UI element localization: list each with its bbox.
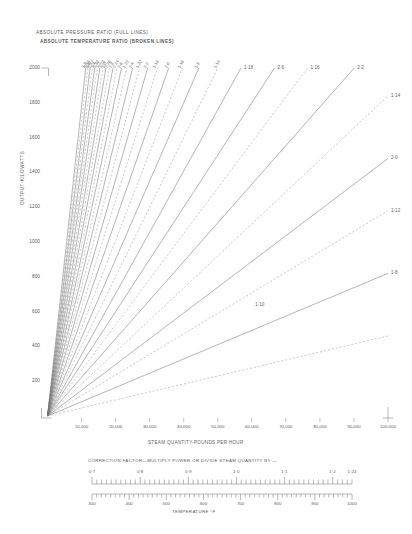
y-axis-tick-label: 600	[18, 309, 40, 314]
x-axis-title: STEAM QUANTITY-POUNDS PER HOUR	[148, 440, 244, 445]
y-axis-tick-label: 800	[18, 274, 40, 279]
temperature-scale-label: 700	[231, 501, 251, 506]
x-axis-tick-label: 60,000	[236, 424, 268, 429]
ray-label-inner: 1·10	[255, 302, 264, 307]
ray-label-right: 1·14	[391, 93, 400, 98]
temperature-scale-label: 600	[193, 501, 213, 506]
x-axis-tick-label: 80,000	[304, 424, 336, 429]
x-axis-tick-label: 20,000	[100, 424, 132, 429]
correction-scale-label: 0·7	[82, 469, 102, 474]
ray-label-right: 1·18	[244, 65, 253, 70]
temperature-scale-label: 900	[305, 501, 325, 506]
temperature-scale-label: 400	[119, 501, 139, 506]
temperature-scale-label: 300	[82, 501, 102, 506]
correction-factor-title: CORRECTION FACTOR—MULTIPLY POWER OR DIVI…	[88, 458, 277, 463]
temperature-axis-title: TEMPERATURE °F	[172, 509, 215, 514]
ray-label-right: 1·12	[391, 208, 400, 213]
x-axis-tick-label: 100,000	[372, 424, 404, 429]
y-axis-tick-label: 200	[18, 378, 40, 383]
y-axis-tick-label: 1000	[18, 239, 40, 244]
y-axis-tick-label: 1800	[18, 100, 40, 105]
y-axis-title: OUTPUT-KILOWATTS	[20, 151, 25, 205]
correction-scale-label: 1·2	[323, 469, 343, 474]
correction-scale-label: 0·8	[130, 469, 150, 474]
x-axis-tick-label: 90,000	[338, 424, 370, 429]
x-axis-tick-label: 10,000	[66, 424, 98, 429]
temperature-scale-label: 800	[268, 501, 288, 506]
ray-label-right: 2·2	[357, 65, 364, 70]
ray-label-right: 2·6	[278, 65, 285, 70]
y-axis-tick-label: 1600	[18, 135, 40, 140]
correction-scale-label: 1·24	[342, 469, 362, 474]
ray-label-right: 1·16	[310, 65, 319, 70]
correction-scale-label: 1·0	[226, 469, 246, 474]
correction-scale-label: 1·1	[274, 469, 294, 474]
ray-label-right: 2·0	[391, 155, 398, 160]
ray-label-right: 1·8	[391, 270, 398, 275]
x-axis-tick-label: 30,000	[134, 424, 166, 429]
correction-scale-label: 0·9	[178, 469, 198, 474]
y-axis-tick-label: 400	[18, 343, 40, 348]
x-axis-tick-label: 70,000	[270, 424, 302, 429]
chart-plot-area	[0, 0, 412, 534]
temperature-scale-label: 1000	[342, 501, 362, 506]
y-axis-tick-label: 1400	[18, 169, 40, 174]
y-axis-tick-label: 1200	[18, 204, 40, 209]
temperature-scale-label: 500	[156, 501, 176, 506]
chart-page: ABSOLUTE PRESSURE RATIO (FULL LINES) ABS…	[0, 0, 412, 534]
x-axis-tick-label: 40,000	[168, 424, 200, 429]
x-axis-tick-label: 50,000	[202, 424, 234, 429]
y-axis-tick-label: 2000	[18, 65, 40, 70]
